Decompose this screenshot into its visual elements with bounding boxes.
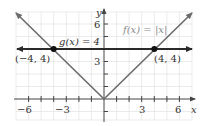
intersection-point-left <box>51 46 57 52</box>
tick-label-x-3: 3 <box>139 104 145 115</box>
intersection-point-right <box>151 46 157 52</box>
tick-label-x-minus6: −6 <box>17 104 32 115</box>
absolute-value-graph: −6 −3 3 6 3 6 x y g(x) = 4 f(x) = |x| (−… <box>0 0 208 126</box>
tick-label-x-6: 6 <box>175 104 181 115</box>
x-axis-label: x <box>191 104 197 115</box>
tick-label-x-minus3: −3 <box>55 104 70 115</box>
tick-label-y-6: 6 <box>94 19 100 30</box>
point-label-left: (−4, 4) <box>15 53 50 64</box>
point-label-right: (4, 4) <box>154 53 181 64</box>
g-function-label: g(x) = 4 <box>59 36 100 47</box>
tick-label-y-3: 3 <box>94 56 100 67</box>
f-function-label: f(x) = |x| <box>122 24 167 36</box>
y-axis-label: y <box>95 7 102 18</box>
